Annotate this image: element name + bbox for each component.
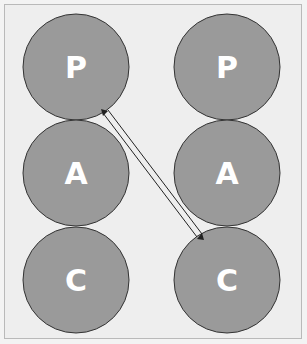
pac-diagram: P A C P A C [0,0,307,344]
right-column: P A C [174,14,280,333]
left-column: P A C [23,14,129,333]
right-label-p: P [216,50,238,85]
left-label-a: A [64,156,88,191]
right-label-c: C [216,263,238,298]
left-label-p: P [65,50,87,85]
right-label-a: A [215,156,239,191]
left-label-c: C [65,263,87,298]
